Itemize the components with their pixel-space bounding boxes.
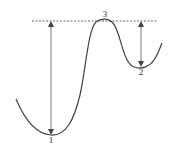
point-label-3: 3 — [103, 10, 108, 19]
energy-curve — [16, 19, 162, 135]
point-label-2: 2 — [139, 68, 144, 77]
diagram-svg — [0, 0, 172, 149]
energy-diagram: 1 2 3 — [0, 0, 172, 149]
point-label-1: 1 — [49, 136, 54, 145]
